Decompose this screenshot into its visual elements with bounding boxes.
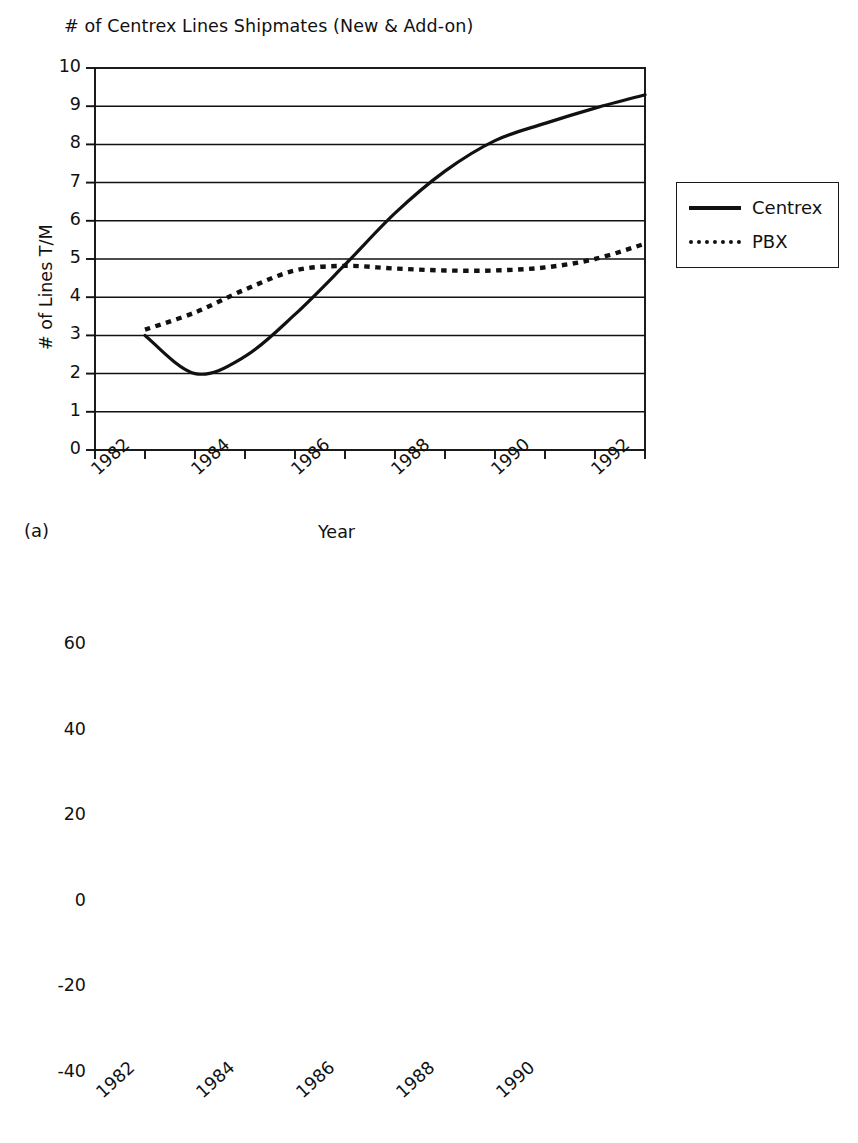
legend-label-centrex: Centrex bbox=[752, 199, 823, 217]
legend-label-pbx: PBX bbox=[752, 233, 788, 251]
y-tick-label: 7 bbox=[70, 171, 81, 191]
legend-line-solid-icon bbox=[689, 206, 741, 209]
figure-b-container: Centrex compared to PBX growth rate Perc… bbox=[0, 570, 858, 1143]
legend-item-centrex: Centrex bbox=[689, 195, 824, 221]
y-tick-label: 4 bbox=[70, 285, 81, 305]
series-line-centrex bbox=[145, 95, 645, 375]
y-tick-label: 10 bbox=[59, 56, 81, 76]
chart-a-plot-area bbox=[0, 0, 858, 570]
chart-b-plot-area bbox=[0, 570, 858, 1143]
legend-line-dotted-icon bbox=[689, 240, 741, 244]
y-tick-label: -40 bbox=[57, 1061, 86, 1081]
chart-a-legend: Centrex PBX bbox=[676, 182, 839, 268]
y-tick-label: 60 bbox=[64, 633, 86, 653]
y-tick-label: -20 bbox=[57, 975, 86, 995]
y-tick-label: 8 bbox=[70, 132, 81, 152]
figure-a-container: # of Centrex Lines Shipmates (New & Add-… bbox=[0, 0, 858, 570]
y-tick-label: 6 bbox=[70, 209, 81, 229]
y-tick-label: 40 bbox=[64, 719, 86, 739]
y-tick-label: 9 bbox=[70, 94, 81, 114]
y-tick-label: 0 bbox=[75, 890, 86, 910]
y-tick-label: 1 bbox=[70, 400, 81, 420]
series-line-pbx bbox=[145, 244, 645, 330]
y-tick-label: 2 bbox=[70, 362, 81, 382]
y-tick-label: 0 bbox=[70, 438, 81, 458]
legend-item-pbx: PBX bbox=[689, 229, 824, 255]
y-tick-label: 5 bbox=[70, 247, 81, 267]
y-tick-label: 20 bbox=[64, 804, 86, 824]
y-tick-label: 3 bbox=[70, 323, 81, 343]
